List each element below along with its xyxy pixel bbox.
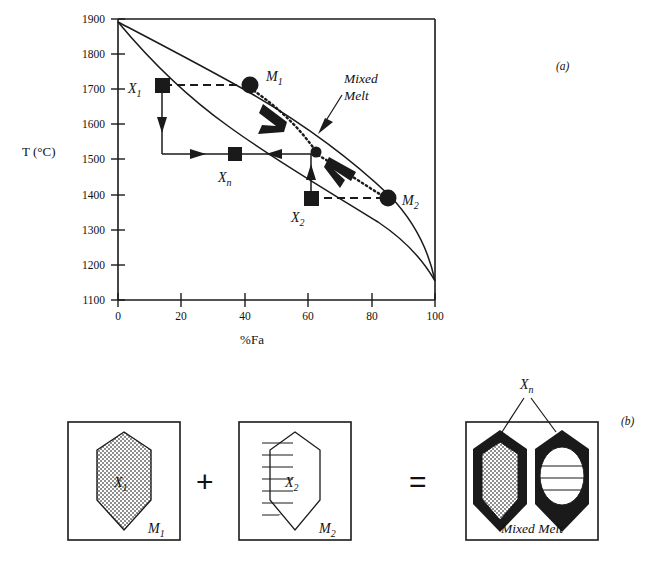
- arrow-right-to-xn: [190, 149, 206, 159]
- marker-x2: [304, 191, 319, 206]
- marker-m1: [242, 77, 259, 94]
- mixed-melt-arrowhead: [318, 118, 333, 134]
- plus-sign: +: [196, 465, 214, 498]
- ytick-label: 1200: [82, 259, 105, 271]
- label-x2: X2: [290, 210, 305, 228]
- label-xn: Xn: [217, 170, 232, 188]
- panel-a-id: (a): [556, 60, 570, 73]
- equals-sign: =: [409, 465, 427, 498]
- marker-mixed-melt: [311, 147, 322, 158]
- ytick-label: 1300: [82, 224, 105, 236]
- ytick-label: 1900: [82, 13, 105, 25]
- label-x1: X1: [127, 81, 142, 99]
- x-axis-title: %Fa: [240, 332, 264, 347]
- panel-b-id: (b): [621, 415, 635, 428]
- panel-b-box-3: Mixed Melt: [466, 422, 598, 540]
- box3-caption: Mixed Melt: [500, 521, 564, 536]
- xtick-label: 40: [239, 310, 251, 322]
- arrow-down-x1: [157, 117, 167, 133]
- xtick-label: 0: [115, 310, 121, 322]
- label-m2: M2: [401, 193, 419, 211]
- xn-callout-label: Xn: [519, 377, 534, 395]
- marker-xn: [228, 147, 242, 161]
- mixed-melt-annotation: Mixed Melt: [318, 71, 378, 134]
- arrow-m1-toward-mix: [258, 104, 287, 134]
- arrow-up-x2: [306, 164, 316, 180]
- mixed-melt-line2: Melt: [343, 88, 370, 103]
- point-labels: X1 M1 Xn X2 M2: [127, 69, 419, 228]
- ytick-label: 1400: [82, 189, 105, 201]
- ytick-label: 1100: [82, 294, 105, 306]
- marker-x1: [155, 78, 170, 93]
- panel-b-box-2: X2 M2: [239, 422, 351, 540]
- figure-root: 1900 1800 1700 1600 1500 1400 1300 1200 …: [0, 0, 667, 563]
- xtick-label: 100: [426, 310, 444, 322]
- y-axis-title: T (°C): [22, 144, 55, 159]
- chart-axes: 1900 1800 1700 1600 1500 1400 1300 1200 …: [22, 13, 444, 347]
- mixed-melt-line1: Mixed: [343, 71, 378, 86]
- phase-diagram-figure: 1900 1800 1700 1600 1500 1400 1300 1200 …: [0, 0, 667, 563]
- xtick-label: 20: [175, 310, 187, 322]
- ytick-label: 1700: [82, 83, 105, 95]
- xtick-label: 60: [302, 310, 314, 322]
- label-m1: M1: [265, 69, 283, 87]
- ytick-label: 1500: [82, 153, 105, 165]
- panel-b-box-1: X1 M1: [68, 422, 180, 540]
- ytick-label: 1800: [82, 48, 105, 60]
- ytick-label: 1600: [82, 118, 105, 130]
- xtick-label: 80: [366, 310, 378, 322]
- marker-m2: [380, 190, 397, 207]
- crystal-right-core: [540, 447, 584, 505]
